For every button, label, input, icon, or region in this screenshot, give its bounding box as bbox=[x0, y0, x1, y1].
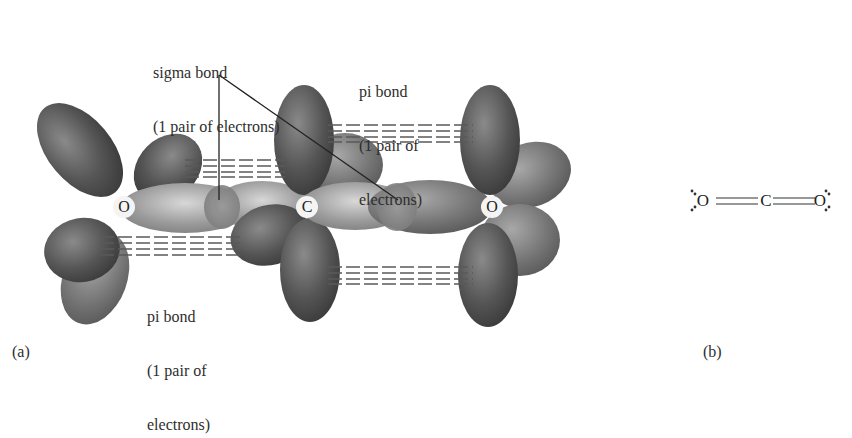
pi-bond-top-title: pi bond bbox=[359, 83, 422, 101]
pi-bond-dashes-lower-right bbox=[328, 267, 473, 284]
pi-bond-bottom-detail-1: (1 pair of bbox=[147, 362, 210, 380]
lewis-atom-oxygen-right: O bbox=[814, 191, 826, 211]
sigma-bond-title: sigma bond bbox=[153, 64, 280, 82]
panel-a-label: (a) bbox=[12, 343, 30, 361]
atom-carbon: C bbox=[302, 198, 313, 216]
sigma-bond-label: sigma bond (1 pair of electrons) bbox=[153, 28, 280, 154]
pi-bond-bottom-title: pi bond bbox=[147, 308, 210, 326]
lewis-atom-oxygen-left: O bbox=[697, 191, 709, 211]
atom-right-oxygen: O bbox=[486, 198, 498, 216]
pi-bond-top-detail-2: electrons) bbox=[359, 191, 422, 209]
pi-bond-top-label: pi bond (1 pair of electrons) bbox=[359, 47, 422, 227]
pi-bond-bottom-detail-2: electrons) bbox=[147, 416, 210, 434]
atom-left-oxygen: O bbox=[118, 198, 130, 216]
sigma-overlap-left bbox=[204, 185, 240, 229]
panel-b-label: (b) bbox=[703, 343, 722, 361]
pi-bond-bottom-label: pi bond (1 pair of electrons) bbox=[147, 272, 210, 438]
lewis-atom-carbon: C bbox=[760, 191, 771, 211]
pi-bond-top-detail-1: (1 pair of bbox=[359, 137, 422, 155]
sigma-bond-detail: (1 pair of electrons) bbox=[153, 118, 280, 136]
